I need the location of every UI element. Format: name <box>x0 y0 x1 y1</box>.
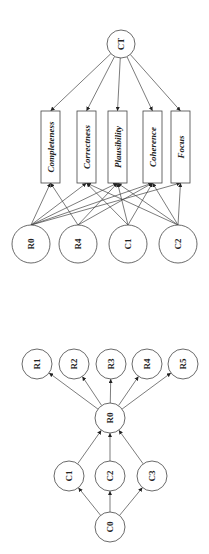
metric-label: Completeness <box>46 121 56 172</box>
node-c1: C1 <box>109 225 147 263</box>
bottom-graph-edges <box>49 373 171 516</box>
edge-r0-focus <box>31 183 181 225</box>
node-c2: C2 <box>95 461 125 491</box>
edge-c2-focus <box>178 183 181 225</box>
node-label: C0 <box>105 521 115 532</box>
node-label: R0 <box>26 238 36 249</box>
node-label: C1 <box>123 238 133 249</box>
edge-c2-coherence <box>153 183 179 225</box>
edge-r0-r4 <box>118 376 138 405</box>
edge-r0-correctness <box>31 183 87 225</box>
node-r2: R2 <box>59 349 89 379</box>
node-r4: R4 <box>132 349 162 379</box>
node-label: R1 <box>32 358 42 369</box>
edge-c2-correctness <box>87 183 179 225</box>
node-ct: CT <box>107 30 135 58</box>
node-r1: R1 <box>22 349 52 379</box>
node-label: R4 <box>73 238 83 249</box>
node-c3: C3 <box>137 461 167 491</box>
node-r5: R5 <box>168 349 198 379</box>
edge-c3-r0 <box>119 430 143 464</box>
node-r0: R0 <box>95 403 125 433</box>
node-label: R5 <box>178 358 188 369</box>
metric-label: Plausibility <box>113 125 123 168</box>
edge-c0-c1 <box>78 488 100 516</box>
metric-label: Coherence <box>148 127 158 167</box>
node-label: R4 <box>142 358 152 369</box>
node-label: C2 <box>173 238 183 249</box>
edge-r0-coherence <box>31 183 153 225</box>
edge-r4-plausibility <box>78 183 118 225</box>
node-label: C3 <box>147 470 157 481</box>
diagram-canvas: CTCompletenessCorrectnessPlausibilityCoh… <box>0 0 209 554</box>
edge-ct-correctness <box>87 56 115 111</box>
edge-c0-c3 <box>120 488 143 516</box>
metric-label: Focus <box>176 135 186 160</box>
metric-box-coherence: Coherence <box>143 111 162 183</box>
node-c1: C1 <box>54 461 84 491</box>
node-c2: C2 <box>159 225 197 263</box>
metric-box-focus: Focus <box>171 111 190 183</box>
node-c0: C0 <box>95 512 125 542</box>
metric-box-correctness: Correctness <box>77 111 96 183</box>
top-graph-nodes: CTCompletenessCorrectnessPlausibilityCoh… <box>12 30 197 263</box>
node-r3: R3 <box>96 349 126 379</box>
node-label: R0 <box>105 412 115 423</box>
node-label: R3 <box>106 358 116 369</box>
metric-label: Correctness <box>82 125 92 170</box>
edge-r0-r2 <box>82 376 101 405</box>
node-r0: R0 <box>12 225 50 263</box>
metric-box-plausibility: Plausibility <box>108 111 127 183</box>
edge-ct-focus <box>130 54 180 111</box>
node-r4: R4 <box>59 225 97 263</box>
metric-box-completeness: Completeness <box>41 111 60 183</box>
edge-ct-completeness <box>51 54 111 111</box>
edge-r4-coherence <box>78 183 153 225</box>
node-label: C2 <box>105 470 115 481</box>
node-label: C1 <box>64 470 74 481</box>
edge-r0-completeness <box>31 183 51 225</box>
edge-ct-plausibility <box>118 58 121 111</box>
edge-c1-r0 <box>78 430 102 464</box>
node-label: CT <box>116 38 126 51</box>
node-label: R2 <box>69 358 79 369</box>
